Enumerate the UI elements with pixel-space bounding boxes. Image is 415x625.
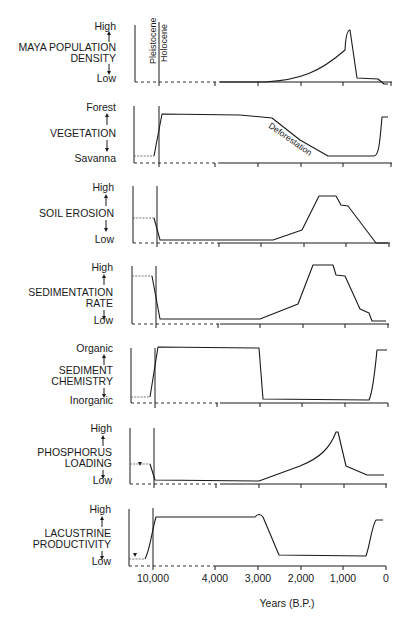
x-tick-label: 0 [383,572,389,584]
phosphorus-curve [150,432,384,481]
panel-title-line2: CHEMISTRY [51,375,113,387]
panel-maya-population-density: High MAYA POPULATION DENSITY Low Pleisto… [19,17,392,86]
x-ticks [216,484,386,488]
axis-high-label: Forest [86,101,116,113]
axis-low-label: Low [94,314,114,326]
x-ticks [215,566,386,570]
x-axis-title: Years (B.P.) [260,597,315,609]
axis-high-label: High [94,20,116,32]
x-ticks [215,82,391,86]
panel-title-line2: LOADING [65,457,112,469]
panel-title-line2: RATE [86,297,113,309]
axis-high-label: High [91,261,113,273]
x-tick-label: 3,000 [245,572,271,584]
axis-low-label: Savanna [75,152,117,164]
panel-title-line2: DENSITY [70,52,116,64]
marker-triangle-icon [133,553,137,557]
x-ticks [219,243,389,247]
axis-high-label: High [90,422,112,434]
vegetation-curve [154,114,388,156]
panel-sedimentation-rate: High SEDIMENTATION RATE Low [28,261,389,328]
panel-soil-erosion: High SOIL EROSION Low [39,181,390,247]
panel-title-line2: PRODUCTIVITY [33,538,111,550]
axis-low-label: Inorganic [70,394,113,406]
holocene-label: Holocene [159,24,169,62]
panel-title-line1: VEGETATION [50,127,116,139]
panel-lacustrine-productivity: High LACUSTRINE PRODUCTIVITY Low [33,503,386,570]
panel-vegetation: Forest VEGETATION Savanna Deforestation [50,101,392,167]
sediment-chemistry-curve [150,347,387,400]
soil-erosion-curve [154,196,388,243]
axis-low-label: Low [95,233,115,245]
lacustrine-curve [145,515,383,560]
deforestation-annotation: Deforestation [267,120,314,157]
pleistocene-label: Pleistocene [148,17,158,64]
axis-low-label: Low [97,72,117,84]
axis-high-label: High [89,503,111,515]
x-tick-label: 2,000 [288,572,314,584]
axis-high-label: Organic [76,342,113,354]
x-tick-label: 10,000 [137,572,169,584]
sedimentation-curve [152,265,386,321]
x-ticks [217,403,388,407]
x-ticks [215,163,391,167]
x-tick-label: 1,000 [330,572,356,584]
panel-title-line1: SOIL EROSION [39,207,114,219]
x-tick-label: 4,000 [202,572,228,584]
x-axis-labels: 10,000 4,000 3,000 2,000 1,000 0 Years (… [137,572,389,609]
paleo-environment-figure: High MAYA POPULATION DENSITY Low Pleisto… [0,0,415,625]
axis-low-label: Low [92,555,112,567]
axis-high-label: High [92,181,114,193]
population-curve [220,30,388,84]
panel-sediment-chemistry: Organic SEDIMENT CHEMISTRY Inorganic [51,342,388,408]
axis-low-label: Low [93,474,113,486]
panel-phosphorus-loading: High PHOSPHORUS LOADING Low [37,422,387,488]
x-ticks [218,324,388,328]
